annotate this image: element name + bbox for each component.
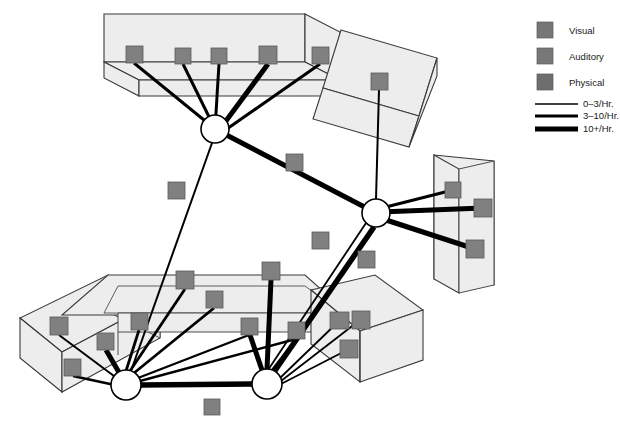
legend-swatch-visual-icon <box>537 22 553 38</box>
sensor-square[interactable] <box>168 182 185 199</box>
legend-label-weight-high: 10+/Hr. <box>583 123 614 134</box>
slab-right-inner-face <box>459 161 494 293</box>
sensor-square[interactable] <box>211 48 227 64</box>
sensor-square[interactable] <box>64 359 81 376</box>
sensor-square[interactable] <box>126 46 143 63</box>
hub-node-right[interactable] <box>362 199 390 227</box>
legend-label-visual: Visual <box>569 25 595 36</box>
sensor-square[interactable] <box>288 322 305 339</box>
sensor-square[interactable] <box>445 182 461 198</box>
sensor-square[interactable] <box>176 271 194 289</box>
sensor-square[interactable] <box>466 240 484 258</box>
sensor-square[interactable] <box>352 311 370 329</box>
network-diagram-svg: Visual Auditory Physical 0–3/Hr. 3–10/Hr… <box>0 0 620 428</box>
legend: Visual Auditory Physical 0–3/Hr. 3–10/Hr… <box>535 22 619 134</box>
hub-node-top[interactable] <box>201 115 229 143</box>
sensor-square[interactable] <box>241 318 258 335</box>
legend-label-weight-low: 0–3/Hr. <box>583 98 614 109</box>
legend-swatch-physical-icon <box>537 74 553 90</box>
diagram-canvas: Visual Auditory Physical 0–3/Hr. 3–10/Hr… <box>0 0 620 428</box>
sensor-square[interactable] <box>312 232 329 249</box>
sensor-square[interactable] <box>50 317 68 335</box>
sensor-square[interactable] <box>175 48 191 64</box>
sensor-square[interactable] <box>97 333 114 350</box>
slab-right <box>434 155 494 293</box>
legend-label-auditory: Auditory <box>569 51 604 62</box>
sensor-square[interactable] <box>330 312 349 329</box>
sensor-square[interactable] <box>358 251 375 268</box>
edge-10-plus-bottom-pair <box>141 384 252 385</box>
edge-10-plus <box>250 335 262 370</box>
sensor-square[interactable] <box>262 262 280 280</box>
hub-node-bottom-center[interactable] <box>252 369 282 399</box>
slab-right-side-face <box>434 155 459 293</box>
sensor-square[interactable] <box>204 399 220 415</box>
legend-label-physical: Physical <box>569 77 604 88</box>
sensor-square[interactable] <box>474 199 492 217</box>
sensor-square[interactable] <box>286 154 303 171</box>
edge-0-3-hub-top-to-bottom-left <box>126 143 212 385</box>
legend-swatch-auditory-icon <box>537 48 553 64</box>
sensor-square[interactable] <box>131 313 148 330</box>
slab-top-bottom-face <box>104 62 340 80</box>
sensor-square[interactable] <box>312 47 329 64</box>
slab-top-lower-front <box>139 80 340 96</box>
legend-label-weight-mid: 3–10/Hr. <box>583 110 619 121</box>
sensor-square[interactable] <box>206 291 223 308</box>
hub-node-bottom-left[interactable] <box>111 370 141 400</box>
sensor-square[interactable] <box>259 46 277 64</box>
sensor-square[interactable] <box>340 340 358 358</box>
sensor-square[interactable] <box>371 73 388 90</box>
